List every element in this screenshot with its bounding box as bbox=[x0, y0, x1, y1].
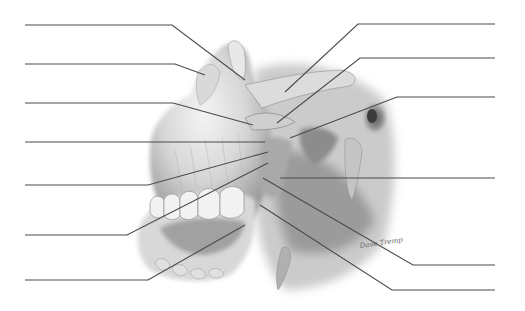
anatomy-diagram: Dave Tremp bbox=[0, 0, 525, 311]
orbit bbox=[365, 105, 385, 131]
skull-illustration: Dave Tremp bbox=[0, 0, 525, 311]
upper-dentition bbox=[138, 187, 256, 282]
leader-line-L2 bbox=[25, 64, 205, 75]
